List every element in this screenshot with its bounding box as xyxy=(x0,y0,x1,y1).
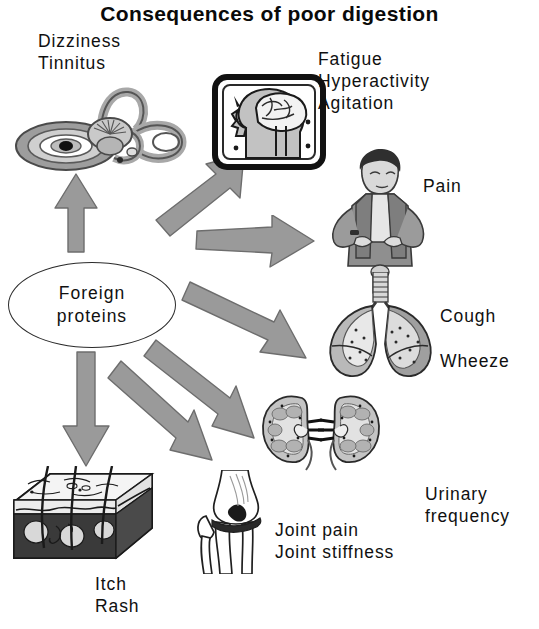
hub-label-line2: proteins xyxy=(57,305,127,328)
label-pain: Pain xyxy=(423,175,462,197)
kidneys-illustration xyxy=(258,388,384,472)
label-skin-symptoms: Itch Rash xyxy=(95,573,139,617)
label-urinary-frequency: Urinary frequency xyxy=(425,483,510,527)
label-wheeze: Wheeze xyxy=(440,350,510,372)
arrow-to-skin xyxy=(60,350,112,468)
lungs-illustration xyxy=(322,272,438,382)
skin-block-illustration xyxy=(10,466,158,574)
label-brain-symptoms: Fatigue Hyperactivity Agitation xyxy=(318,48,430,114)
brain-head-illustration xyxy=(212,74,326,170)
arrow-to-ear xyxy=(52,172,100,254)
inner-ear-illustration xyxy=(14,82,190,172)
label-ear-symptoms: Dizziness Tinnitus xyxy=(38,30,121,74)
page-title: Consequences of poor digestion xyxy=(0,2,539,26)
knee-joint-illustration xyxy=(190,470,280,574)
hub-label-line1: Foreign xyxy=(59,282,125,305)
diagram-canvas: Consequences of poor digestion xyxy=(0,0,539,629)
arrow-to-person xyxy=(192,215,318,273)
label-cough: Cough xyxy=(440,305,496,327)
foreign-proteins-node: Foreign proteins xyxy=(8,262,176,348)
hub-label: Foreign proteins xyxy=(8,262,176,348)
arrow-to-joint xyxy=(104,352,216,464)
label-joint-symptoms: Joint pain Joint stiffness xyxy=(275,519,394,563)
